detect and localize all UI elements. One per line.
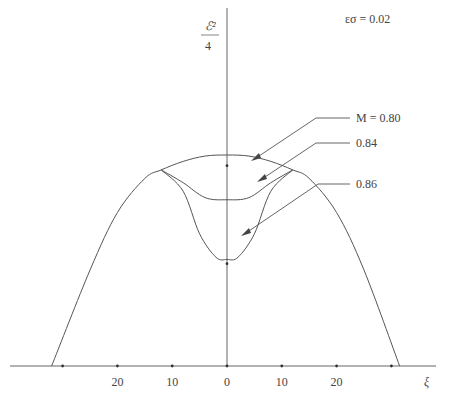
y-axis-label-denominator: 4 (205, 39, 211, 53)
arrowhead-086 (241, 228, 251, 236)
arrowhead-084 (257, 174, 267, 182)
callout-m080: M = 0.80 (251, 111, 400, 161)
annotation-epsilon-sigma: εσ = 0.02 (345, 12, 390, 26)
y-axis-label-numerator: ℰ² (205, 19, 216, 33)
callout-084: 0.84 (257, 136, 377, 182)
y-axis-mark (226, 164, 229, 167)
legend-label-m080: M = 0.80 (356, 111, 400, 125)
x-tick-mark (116, 365, 119, 368)
legend-label-086: 0.86 (356, 177, 377, 191)
x-tick-label: 0 (224, 375, 230, 389)
curve-m080 (52, 155, 400, 366)
x-tick-label: 20 (111, 375, 123, 389)
x-tick-mark (61, 365, 64, 368)
x-tick-mark (280, 365, 283, 368)
x-tick-mark (226, 365, 229, 368)
x-tick-label: 10 (276, 375, 288, 389)
callout-086: 0.86 (241, 177, 377, 236)
chart: ℰ² 4 εσ = 0.02 ξ 201001020 M = 0.80 0.84… (0, 0, 449, 404)
x-tick-label: 10 (166, 375, 178, 389)
x-tick-label: 20 (331, 375, 343, 389)
x-tick-mark (390, 365, 393, 368)
legend-label-084: 0.84 (356, 136, 377, 150)
x-axis-label: ξ (424, 375, 430, 389)
leader-line-m080 (253, 118, 350, 160)
x-tick-mark (171, 365, 174, 368)
y-axis-mark (226, 262, 229, 265)
x-tick-mark (335, 365, 338, 368)
